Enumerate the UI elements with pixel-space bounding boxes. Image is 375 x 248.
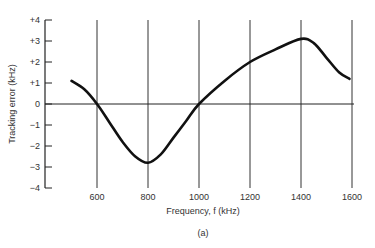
y-tick-label: −1 — [30, 120, 40, 130]
tracking-error-chart: +4+3+2+10−1−2−3−4 6008001000120014001600… — [0, 0, 375, 248]
tracking-error-curve — [72, 39, 350, 163]
x-tick-label: 1200 — [240, 192, 260, 202]
x-axis-tick-labels: 6008001000120014001600 — [89, 192, 362, 202]
y-axis: +4+3+2+10−1−2−3−4 — [30, 15, 52, 193]
figure-caption: (a) — [198, 228, 209, 238]
y-tick-label: 0 — [35, 99, 40, 109]
y-tick-label: +3 — [30, 36, 40, 46]
x-axis-title: Frequency, f (kHz) — [166, 206, 239, 216]
y-tick-label: +1 — [30, 78, 40, 88]
y-tick-label: −2 — [30, 141, 40, 151]
y-axis-title: Tracking error (kHz) — [7, 64, 17, 144]
x-tick-label: 800 — [140, 192, 155, 202]
x-tick-label: 1000 — [189, 192, 209, 202]
y-tick-label: −4 — [30, 183, 40, 193]
y-tick-label: +4 — [30, 15, 40, 25]
y-tick-label: −3 — [30, 162, 40, 172]
y-tick-label: +2 — [30, 57, 40, 67]
x-tick-label: 1600 — [342, 192, 362, 202]
x-tick-label: 1400 — [291, 192, 311, 202]
x-tick-label: 600 — [89, 192, 104, 202]
